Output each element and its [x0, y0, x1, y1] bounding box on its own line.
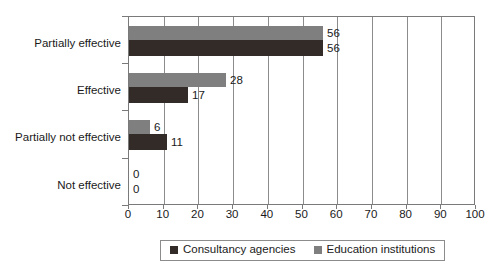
y-axis-tick-3	[122, 158, 128, 159]
gridline-80	[407, 17, 408, 204]
bar-chart: 56 56 28 17 6 11 0 0 Partially effective…	[0, 0, 497, 275]
bar-effective-consultancy	[129, 87, 188, 103]
y-axis-tick-2	[122, 110, 128, 111]
gridline-90	[441, 17, 442, 204]
x-axis-label-100: 100	[455, 209, 495, 221]
bar-partially-effective-consultancy	[129, 40, 323, 56]
value-label-not-effective-education: 0	[133, 169, 139, 181]
bar-partially-not-effective-consultancy	[129, 134, 167, 150]
y-axis-label-not-effective: Not effective	[0, 180, 121, 192]
legend: Consultancy agencies Education instituti…	[160, 240, 445, 261]
value-label-partially-effective-consultancy: 56	[327, 43, 340, 55]
legend-item-education-institutions: Education institutions	[314, 244, 436, 256]
legend-label-education-institutions: Education institutions	[327, 244, 436, 256]
gridline-70	[372, 17, 373, 204]
y-axis-tick-0	[122, 16, 128, 17]
legend-item-consultancy-agencies: Consultancy agencies	[170, 244, 296, 256]
legend-swatch-icon-consultancy	[170, 246, 178, 254]
value-label-partially-not-effective-education: 6	[154, 122, 160, 134]
y-axis-label-partially-effective: Partially effective	[0, 38, 121, 50]
y-axis-label-effective: Effective	[0, 85, 121, 97]
value-label-effective-consultancy: 17	[192, 90, 205, 102]
value-label-partially-effective-education: 56	[327, 28, 340, 40]
y-axis-tick-1	[122, 63, 128, 64]
plot-area: 56 56 28 17 6 11 0 0	[128, 16, 475, 205]
bar-partially-effective-education	[129, 26, 323, 40]
y-axis-label-partially-not-effective: Partially not effective	[0, 132, 121, 144]
legend-label-consultancy-agencies: Consultancy agencies	[183, 244, 296, 256]
bar-partially-not-effective-education	[129, 120, 150, 134]
value-label-not-effective-consultancy: 0	[133, 184, 139, 196]
value-label-partially-not-effective-consultancy: 11	[171, 137, 183, 149]
value-label-effective-education: 28	[230, 75, 243, 87]
bar-effective-education	[129, 73, 226, 87]
legend-swatch-icon-education	[314, 246, 322, 254]
